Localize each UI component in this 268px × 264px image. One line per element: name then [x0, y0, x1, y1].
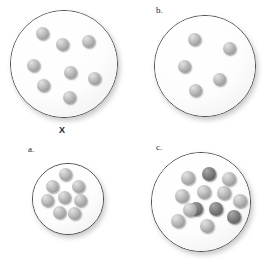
sphere-dark [209, 202, 223, 216]
panel-c-label: c. [156, 143, 162, 152]
sphere-light [233, 194, 247, 208]
particle-diagram-figure: Xb.a.c. [0, 0, 268, 264]
sphere-dark [227, 210, 241, 224]
sphere-light [181, 171, 195, 185]
sphere-light [175, 189, 189, 203]
sphere-light [200, 219, 214, 233]
sphere-light [222, 172, 236, 186]
sphere-light [217, 186, 231, 200]
sphere-light [197, 185, 211, 199]
sphere-light [171, 214, 185, 228]
panel-c: c. [0, 0, 268, 264]
sphere-dark [202, 167, 216, 181]
sphere-light [183, 203, 197, 217]
